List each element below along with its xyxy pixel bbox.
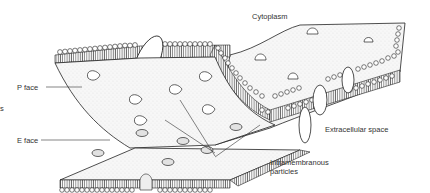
label-intramembranous-particles-line1: Intramembranous	[270, 158, 329, 167]
label-p-face: P face	[17, 83, 38, 92]
label-intramembranous-particles-line2: particles	[270, 167, 298, 176]
membrane-diagram	[0, 0, 430, 193]
label-extracellular-space: Extracellular space	[325, 125, 388, 134]
label-e-face: E face	[17, 136, 38, 145]
label-cropped-text: s	[0, 104, 4, 113]
label-cytoplasm: Cytoplasm	[252, 12, 287, 21]
